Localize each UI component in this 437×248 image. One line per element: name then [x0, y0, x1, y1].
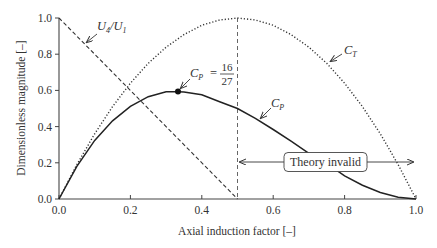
cp-max-marker: [175, 89, 181, 95]
svg-text:=: =: [210, 66, 217, 80]
x-tick-5: 1.0: [409, 204, 424, 216]
y-tick-2: 0.4: [38, 121, 53, 133]
svg-text:16: 16: [222, 61, 234, 73]
cp-max-label: CP = 16 27: [190, 61, 234, 87]
u4u1-label: U4/U1: [97, 19, 127, 35]
power-thrust-coefficient-chart: 0.0 0.2 0.4 0.6 0.8 1.0 0.0 0.2 0.4 0.6 …: [0, 0, 437, 248]
ct-label: CT: [344, 43, 357, 59]
y-tick-0: 0.0: [38, 193, 53, 205]
y-ticks: [55, 18, 59, 199]
y-tick-4: 0.8: [38, 48, 53, 60]
theory-invalid-label: Theory invalid: [290, 155, 361, 169]
cp-max-label-arrow: [181, 79, 190, 88]
svg-text:CP: CP: [190, 66, 203, 82]
u4u1-label-arrow: [87, 34, 97, 42]
y-axis-label: Dimensionless magnitude [–]: [15, 40, 28, 175]
y-tick-3: 0.6: [38, 84, 53, 96]
x-tick-3: 0.6: [266, 204, 281, 216]
x-tick-labels: 0.0 0.2 0.4 0.6 0.8 1.0: [52, 204, 424, 216]
u4-u1-series: [59, 18, 238, 199]
y-tick-5: 1.0: [38, 12, 53, 24]
x-axis-label: Axial induction factor [–]: [178, 225, 296, 237]
x-tick-4: 0.8: [337, 204, 352, 216]
cp-label: CP: [271, 96, 284, 112]
y-tick-1: 0.2: [38, 157, 53, 169]
svg-text:27: 27: [222, 75, 234, 87]
x-tick-0: 0.0: [52, 204, 67, 216]
x-tick-2: 0.4: [195, 204, 210, 216]
cp-label-arrow: [261, 108, 271, 118]
ct-label-arrow: [331, 54, 342, 61]
y-tick-labels: 0.0 0.2 0.4 0.6 0.8 1.0: [38, 12, 53, 205]
x-tick-1: 0.2: [123, 204, 138, 216]
